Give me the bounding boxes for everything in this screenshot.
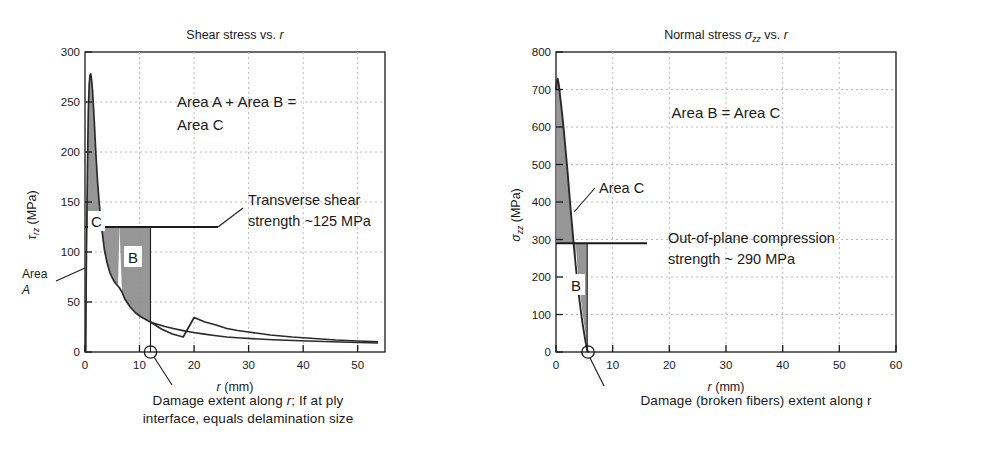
- y-axis-tick-labels: 0 50 100 150 200 250 300: [61, 46, 80, 358]
- caption-shear-line2: interface, equals delamination size: [143, 411, 354, 426]
- damage-extent-leader-line: [154, 357, 172, 385]
- region-label-c-shear-text: C: [91, 213, 102, 230]
- chart-title-normal-mid: vs.: [761, 28, 784, 42]
- region-label-c-shear: C: [88, 211, 105, 231]
- region-label-a-shear-letter: A: [21, 283, 30, 297]
- x-tick-30: 30: [720, 359, 733, 371]
- y-axis-label-normal-unit: (MPa): [509, 188, 523, 226]
- y-tick-500: 500: [532, 159, 551, 171]
- area-a-leader-line: [56, 268, 85, 281]
- region-label-a-shear: Area A: [21, 267, 48, 297]
- y-tick-0: 0: [545, 346, 551, 358]
- y-axis-label-normal: σzz (MPa): [509, 188, 525, 242]
- y-tick-100: 100: [61, 246, 80, 258]
- region-label-c-normal: Area C: [599, 180, 644, 196]
- caption-normal: Damage (broken fibers) extent along r: [556, 392, 956, 410]
- chart-title-shear-var: r: [279, 28, 284, 42]
- x-axis-tick-labels: 0 10 20 30 40 50 60: [553, 359, 903, 371]
- region-label-b-normal: B: [567, 274, 585, 295]
- caption-shear-part1: Damage extent along: [153, 393, 287, 408]
- strength-annotation-shear-line2: strength ~125 MPa: [248, 213, 372, 229]
- chart-title-shear: Shear stress vs. r: [186, 28, 284, 42]
- damage-extent-leader-line: [590, 358, 604, 386]
- y-axis-label-shear-unit: (MPa): [25, 190, 39, 228]
- strength-annotation-normal-line1: Out-of-plane compression: [668, 230, 835, 246]
- x-tick-0: 0: [82, 359, 88, 371]
- caption-shear-part2: ; If at ply: [291, 393, 343, 408]
- x-tick-50: 50: [833, 359, 846, 371]
- x-tick-40: 40: [297, 359, 310, 371]
- chart-title-shear-prefix: Shear stress vs.: [186, 28, 279, 42]
- region-label-b-normal-text: B: [571, 277, 581, 294]
- x-tick-30: 30: [242, 359, 255, 371]
- x-tick-60: 60: [890, 359, 903, 371]
- strength-annotation-normal-line2: strength ~ 290 MPa: [668, 251, 796, 267]
- caption-shear: Damage extent along r; If at ply interfa…: [44, 392, 452, 428]
- y-tick-300: 300: [532, 234, 551, 246]
- y-tick-100: 100: [532, 309, 551, 321]
- region-label-b-shear: B: [124, 246, 142, 267]
- chart-title-normal-var: r: [784, 28, 789, 42]
- strength-annotation-shear-line1: Transverse shear: [248, 192, 360, 208]
- x-tick-10: 10: [133, 359, 146, 371]
- caption-normal-text: Damage (broken fibers) extent along r: [640, 393, 871, 408]
- chart-title-normal-prefix: Normal stress: [664, 28, 745, 42]
- y-axis-label-shear: τrz (MPa): [25, 190, 41, 239]
- area-relation-note-normal: Area B = Area C: [672, 104, 781, 121]
- figure-root: 0 50 100 150 200 250 300 0 10: [0, 0, 992, 463]
- y-axis-tick-labels: 0 100 200 300 400 500 600 700 800: [532, 46, 551, 358]
- y-tick-250: 250: [61, 96, 80, 108]
- x-tick-10: 10: [606, 359, 619, 371]
- y-tick-50: 50: [67, 296, 80, 308]
- x-axis-tick-labels: 0 10 20 30 40 50: [82, 359, 364, 371]
- y-tick-700: 700: [532, 84, 551, 96]
- region-label-b-shear-text: B: [128, 249, 138, 266]
- area-relation-note-shear-line2: Area C: [177, 116, 224, 133]
- y-tick-150: 150: [61, 196, 80, 208]
- region-label-a-shear-word: Area: [22, 267, 48, 281]
- chart-panel-shear-stress: 0 50 100 150 200 250 300 0 10: [0, 0, 496, 463]
- chart-panel-normal-stress: 0 100 200 300 400 500 600 700 800: [496, 0, 992, 463]
- y-tick-600: 600: [532, 121, 551, 133]
- x-tick-20: 20: [663, 359, 676, 371]
- chart-title-normal: Normal stress σzz vs. r: [664, 28, 789, 44]
- x-tick-40: 40: [776, 359, 789, 371]
- area-relation-note-shear-line1: Area A + Area B =: [177, 93, 296, 110]
- y-tick-800: 800: [532, 46, 551, 58]
- x-tick-20: 20: [188, 359, 201, 371]
- y-tick-200: 200: [532, 271, 551, 283]
- x-tick-50: 50: [351, 359, 364, 371]
- y-tick-200: 200: [61, 146, 80, 158]
- x-tick-0: 0: [553, 359, 559, 371]
- y-tick-300: 300: [61, 46, 80, 58]
- y-tick-0: 0: [74, 346, 80, 358]
- y-tick-400: 400: [532, 196, 551, 208]
